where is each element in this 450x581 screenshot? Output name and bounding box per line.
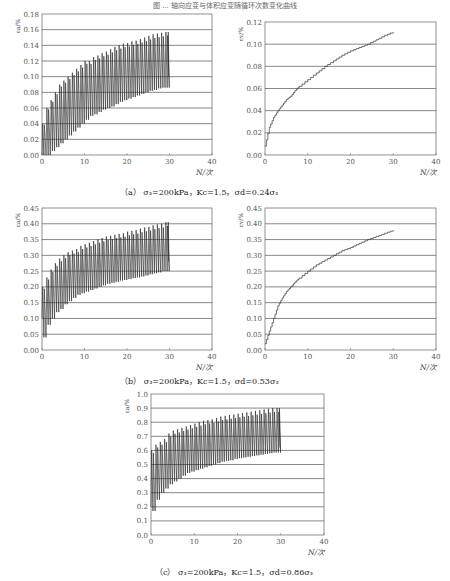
- svg-text:0.1: 0.1: [137, 517, 148, 525]
- svg-text:0.08: 0.08: [246, 63, 262, 71]
- svg-text:1.0: 1.0: [137, 391, 148, 399]
- svg-text:40: 40: [208, 353, 217, 361]
- svg-text:0.8: 0.8: [137, 419, 148, 427]
- svg-text:0.7: 0.7: [137, 433, 148, 441]
- svg-text:0.0: 0.0: [137, 532, 148, 540]
- svg-text:0.00: 0.00: [246, 152, 262, 160]
- svg-text:20: 20: [346, 158, 355, 166]
- svg-text:0.00: 0.00: [23, 347, 39, 355]
- svg-text:εa/%: εa/%: [123, 399, 130, 414]
- svg-text:0.3: 0.3: [137, 489, 148, 497]
- svg-text:20: 20: [123, 353, 132, 361]
- svg-text:20: 20: [123, 158, 132, 166]
- svg-text:0.35: 0.35: [246, 236, 262, 244]
- svg-text:N/次: N/次: [195, 363, 214, 372]
- svg-text:0.08: 0.08: [23, 89, 39, 97]
- svg-text:0.18: 0.18: [23, 11, 39, 19]
- caption-a: （a） σ₃=200kPa，Kc=1.5，σd=0.24σ₃: [120, 186, 278, 197]
- svg-text:0.4: 0.4: [137, 475, 149, 483]
- svg-text:0.10: 0.10: [23, 315, 39, 323]
- svg-text:0.14: 0.14: [23, 42, 39, 50]
- svg-text:10: 10: [303, 158, 312, 166]
- svg-text:30: 30: [165, 353, 174, 361]
- svg-text:0.05: 0.05: [246, 331, 262, 339]
- caption-c: （c） σ₃=200kPa，Kc=1.5，σd=0.86σ₃: [155, 566, 313, 577]
- svg-text:20: 20: [346, 353, 355, 361]
- svg-text:0.00: 0.00: [23, 152, 39, 160]
- svg-text:0: 0: [149, 538, 153, 546]
- svg-text:0.10: 0.10: [246, 315, 262, 323]
- svg-text:0.20: 0.20: [23, 283, 39, 291]
- svg-text:0: 0: [263, 353, 267, 361]
- svg-text:10: 10: [303, 353, 312, 361]
- svg-text:0.45: 0.45: [246, 205, 262, 213]
- svg-text:0.30: 0.30: [246, 252, 262, 260]
- svg-text:0.06: 0.06: [246, 85, 262, 93]
- svg-text:0: 0: [40, 353, 44, 361]
- svg-text:0.05: 0.05: [23, 331, 39, 339]
- svg-text:0.06: 0.06: [23, 105, 39, 113]
- caption-b: （b） σ₃=200kPa，Kc=1.5，σd=0.53σ₃: [120, 375, 279, 386]
- svg-text:0: 0: [263, 158, 267, 166]
- svg-text:10: 10: [80, 158, 89, 166]
- svg-text:10: 10: [190, 538, 199, 546]
- svg-text:εv/%: εv/%: [237, 213, 244, 228]
- figure-canvas: 0.000.020.040.060.080.100.120.140.160.18…: [0, 0, 450, 581]
- svg-text:0.12: 0.12: [246, 19, 262, 27]
- svg-text:30: 30: [276, 538, 285, 546]
- svg-text:40: 40: [432, 353, 441, 361]
- chart-a-right: 0.000.020.040.060.080.100.12010203040N/次…: [237, 19, 440, 178]
- svg-text:0.12: 0.12: [23, 58, 39, 66]
- svg-text:30: 30: [165, 158, 174, 166]
- svg-text:0.04: 0.04: [23, 120, 39, 128]
- svg-text:εa/%: εa/%: [14, 213, 21, 228]
- chart-b-left: 0.000.050.100.150.200.250.300.350.400.45…: [14, 205, 216, 373]
- svg-text:30: 30: [389, 158, 398, 166]
- svg-text:0.15: 0.15: [246, 299, 262, 307]
- svg-text:10: 10: [80, 353, 89, 361]
- svg-text:0.9: 0.9: [137, 405, 148, 413]
- svg-text:0.10: 0.10: [23, 73, 39, 81]
- svg-text:0.00: 0.00: [246, 347, 262, 355]
- svg-text:30: 30: [389, 353, 398, 361]
- chart-a-left: 0.000.020.040.060.080.100.120.140.160.18…: [14, 11, 216, 178]
- svg-text:0.45: 0.45: [23, 205, 39, 213]
- chart-b-right: 0.000.050.100.150.200.250.300.350.400.45…: [237, 205, 440, 373]
- svg-text:0.02: 0.02: [23, 136, 39, 144]
- svg-text:0.30: 0.30: [23, 252, 39, 260]
- svg-text:40: 40: [432, 158, 441, 166]
- svg-text:0.5: 0.5: [137, 461, 148, 469]
- svg-text:0.40: 0.40: [246, 220, 262, 228]
- svg-text:εv/%: εv/%: [237, 27, 244, 42]
- svg-text:0.35: 0.35: [23, 236, 39, 244]
- svg-text:0.20: 0.20: [246, 283, 262, 291]
- chart-c: 0.00.10.20.30.40.50.60.70.80.91.00102030…: [123, 391, 328, 558]
- svg-text:0.25: 0.25: [23, 268, 39, 276]
- svg-text:0.02: 0.02: [246, 129, 262, 137]
- svg-text:N/次: N/次: [195, 168, 214, 177]
- svg-text:20: 20: [233, 538, 242, 546]
- svg-text:N/次: N/次: [419, 363, 438, 372]
- svg-text:0.16: 0.16: [23, 26, 39, 34]
- svg-text:N/次: N/次: [419, 168, 438, 177]
- svg-text:εa/%: εa/%: [14, 19, 21, 34]
- svg-text:40: 40: [320, 538, 329, 546]
- svg-text:0: 0: [40, 158, 44, 166]
- svg-text:0.2: 0.2: [137, 503, 148, 511]
- svg-text:0.04: 0.04: [246, 107, 262, 115]
- svg-text:0.15: 0.15: [23, 299, 39, 307]
- svg-text:0.6: 0.6: [137, 447, 149, 455]
- svg-text:N/次: N/次: [307, 548, 326, 557]
- svg-text:0.40: 0.40: [23, 220, 39, 228]
- svg-text:0.10: 0.10: [246, 41, 262, 49]
- svg-text:40: 40: [208, 158, 217, 166]
- svg-text:0.25: 0.25: [246, 268, 262, 276]
